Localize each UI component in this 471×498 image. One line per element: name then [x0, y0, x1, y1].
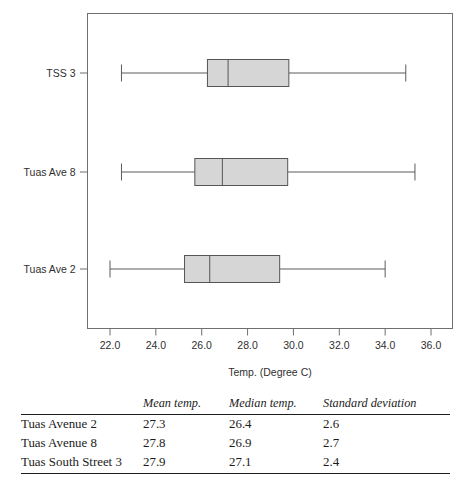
table-header-site — [21, 396, 143, 415]
summary-statistics-table: Mean temp. Median temp. Standard deviati… — [21, 396, 450, 474]
table-cell-site: Tuas Avenue 2 — [21, 415, 143, 435]
table-cell-site: Tuas Avenue 8 — [21, 434, 143, 453]
category-label-3: Tuas Ave 2 — [24, 263, 76, 275]
boxplot-figure: 22.024.026.028.030.032.034.036.0TSS 3Tua… — [0, 0, 471, 390]
box-3 — [185, 256, 280, 283]
table-cell-mean: 27.9 — [143, 453, 229, 474]
table-row: Tuas Avenue 827.826.92.7 — [21, 434, 450, 453]
x-axis-tick-label: 30.0 — [283, 339, 304, 351]
table-cell-median: 27.1 — [229, 453, 323, 474]
x-axis-tick-label: 24.0 — [146, 339, 167, 351]
table-cell-mean: 27.8 — [143, 434, 229, 453]
category-label-1: TSS 3 — [46, 67, 75, 79]
x-axis-tick-label: 34.0 — [375, 339, 396, 351]
boxplot-chart: 22.024.026.028.030.032.034.036.0TSS 3Tua… — [0, 0, 471, 390]
table-header-sd: Standard deviation — [323, 396, 450, 415]
box-2 — [195, 159, 288, 186]
x-axis-title: Temp. (Degree C) — [228, 366, 311, 378]
x-axis-tick-label: 28.0 — [237, 339, 258, 351]
table-cell-sd: 2.4 — [323, 453, 450, 474]
table-cell-site: Tuas South Street 3 — [21, 453, 143, 474]
table-cell-median: 26.4 — [229, 415, 323, 435]
table-row: Tuas South Street 327.927.12.4 — [21, 453, 450, 474]
table-header-median: Median temp. — [229, 396, 323, 415]
table-cell-sd: 2.6 — [323, 415, 450, 435]
x-axis-tick-label: 32.0 — [329, 339, 350, 351]
x-axis-tick-label: 22.0 — [100, 339, 121, 351]
table-cell-mean: 27.3 — [143, 415, 229, 435]
table-row: Tuas Avenue 227.326.42.6 — [21, 415, 450, 435]
table-cell-sd: 2.7 — [323, 434, 450, 453]
x-axis-tick-label: 26.0 — [191, 339, 212, 351]
x-axis-tick-label: 36.0 — [421, 339, 442, 351]
category-label-2: Tuas Ave 8 — [24, 166, 76, 178]
box-1 — [207, 60, 288, 87]
table-header-mean: Mean temp. — [143, 396, 229, 415]
table-cell-median: 26.9 — [229, 434, 323, 453]
